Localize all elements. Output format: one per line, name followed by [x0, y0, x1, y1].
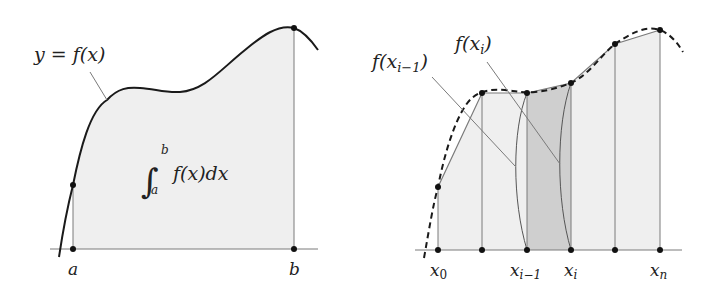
integral-lower-limit: a	[151, 183, 158, 197]
label-f-prev: f(xi−1)	[370, 50, 428, 75]
trapezoid-4	[615, 30, 660, 250]
label-x0: x0	[430, 260, 447, 282]
label-x-i-minus-1: xi−1	[510, 260, 541, 282]
integrand: f(x)dx	[171, 162, 229, 184]
trapezoid-3	[571, 44, 615, 250]
point-f-b	[291, 25, 297, 31]
label-b: b	[289, 259, 300, 279]
riemann-trapezoid-diagram: y = f(x) ∫ b a f(x)dx a b	[0, 0, 720, 301]
curve-label-leader	[90, 72, 107, 100]
point-f-a	[70, 182, 76, 188]
curve-label: y = f(x)	[33, 43, 105, 65]
integral-upper-limit: b	[161, 143, 169, 157]
label-a: a	[68, 259, 78, 279]
point-a	[70, 246, 76, 252]
left-panel: y = f(x) ∫ b a f(x)dx a b	[33, 25, 318, 279]
label-x-i: xi	[564, 260, 578, 282]
label-f-cur: f(xi)	[453, 32, 492, 57]
point-b	[291, 246, 297, 252]
label-x-n: xn	[650, 260, 667, 282]
integral-area	[73, 28, 294, 249]
right-panel: f(xi−1) f(xi) x0 xi−1 xi xn	[370, 27, 683, 282]
